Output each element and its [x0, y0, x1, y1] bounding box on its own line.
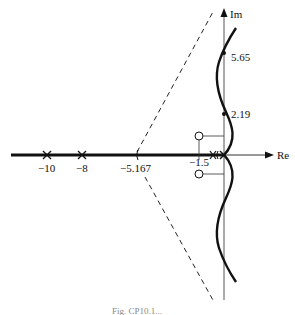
- centroid-label: −5.167: [120, 162, 151, 174]
- pole-label: −10: [38, 162, 56, 174]
- real-axis-label: Re: [277, 149, 289, 161]
- asymptote-lower: [145, 177, 214, 302]
- crossing-label: 2.19: [231, 108, 251, 120]
- figure-caption: Fig. CP10.1...: [112, 306, 162, 315]
- root-locus-diagram: Re Im 5.65 2.19 −10 −8 −5.167 −1.5 Fig. …: [0, 0, 295, 315]
- imag-axis-arrow-icon: [221, 8, 228, 17]
- asymptote-upper: [137, 10, 214, 152]
- zero-marker-icon: [195, 170, 203, 178]
- pole-label: −8: [76, 162, 88, 174]
- crossing-point-icon: [222, 51, 226, 55]
- zero-marker-icon: [195, 132, 203, 140]
- zero-label: −1.5: [189, 156, 209, 168]
- imag-axis-label: Im: [230, 8, 243, 20]
- crossing-label: 5.65: [231, 51, 251, 63]
- crossing-point-icon: [222, 112, 226, 116]
- real-axis-arrow-icon: [265, 152, 274, 159]
